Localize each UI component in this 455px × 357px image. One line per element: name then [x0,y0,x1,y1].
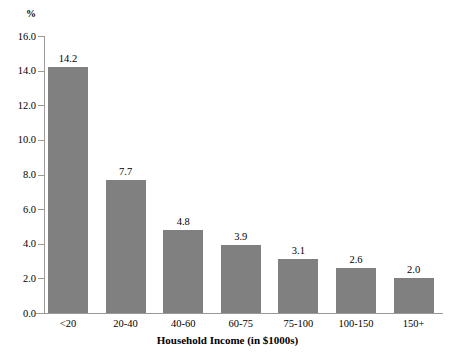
bar-slot: 2.6 [336,36,376,313]
y-axis-tick-mark [38,278,44,279]
bar[interactable] [106,180,146,313]
bar[interactable] [336,268,376,313]
x-axis-category-label: 75-100 [269,317,327,330]
y-axis-tick-label-wrap: 4.0 [0,238,36,249]
bar-slot: 3.9 [221,36,261,313]
bar-value-label: 2.0 [407,264,420,276]
plot-area: % 16.014.012.010.08.06.04.02.00.0 14.2<2… [0,0,455,357]
bar[interactable] [278,259,318,313]
y-axis-tick-mark [38,71,44,72]
bar-slot: 3.1 [278,36,318,313]
x-axis-line [36,313,443,314]
bar-value-label: 3.1 [292,245,305,257]
x-axis-category-label: <20 [39,317,97,330]
y-axis-tick-label: 10.0 [2,134,36,145]
y-axis-tick-label-wrap: 8.0 [0,169,36,180]
y-axis-tick-mark [38,209,44,210]
y-axis-tick-label-wrap: 6.0 [0,204,36,215]
y-axis-tick-label-wrap: 16.0 [0,31,36,42]
x-axis-title: Household Income (in $1000s) [0,334,455,347]
bar-value-label: 7.7 [119,166,132,178]
y-axis-line [44,36,45,314]
y-axis-tick-mark [38,244,44,245]
x-axis-category-label: 40-60 [154,317,212,330]
y-axis-tick-mark [38,140,44,141]
bar-value-label: 3.9 [234,231,247,243]
y-axis-tick-label: 2.0 [2,273,36,284]
y-axis-tick-label: 0.0 [2,308,36,319]
x-axis-category-label: 20-40 [97,317,155,330]
y-axis-tick-label-wrap: 0.0 [0,308,36,319]
x-axis-category-label: 60-75 [212,317,270,330]
x-axis-category-label: 150+ [385,317,443,330]
y-axis-tick-label: 12.0 [2,100,36,111]
y-axis-unit-label: % [26,8,36,20]
y-axis-tick-label: 16.0 [2,31,36,42]
bar-value-label: 2.6 [349,254,362,266]
bar-chart: % 16.014.012.010.08.06.04.02.00.0 14.2<2… [0,0,455,357]
bar[interactable] [48,67,88,313]
bar[interactable] [394,278,434,313]
y-axis-tick-label: 8.0 [2,169,36,180]
y-axis-tick-label-wrap: 2.0 [0,273,36,284]
y-axis-tick-mark [38,175,44,176]
bar[interactable] [163,230,203,313]
bar[interactable] [221,245,261,313]
y-axis-tick-label: 14.0 [2,65,36,76]
bar-value-label: 14.2 [59,53,77,65]
bar-slot: 4.8 [163,36,203,313]
y-axis-tick-label: 6.0 [2,204,36,215]
y-axis-tick-mark [38,313,44,314]
y-axis-tick-label: 4.0 [2,238,36,249]
bar-slot: 14.2 [48,36,88,313]
y-axis-tick-label-wrap: 12.0 [0,100,36,111]
y-axis-tick-mark [38,105,44,106]
y-axis-tick-label-wrap: 14.0 [0,65,36,76]
y-axis-tick-label-wrap: 10.0 [0,134,36,145]
bar-slot: 2.0 [394,36,434,313]
x-axis-category-label: 100-150 [327,317,385,330]
bar-value-label: 4.8 [177,216,190,228]
bar-slot: 7.7 [106,36,146,313]
y-axis-tick-mark [38,36,44,37]
